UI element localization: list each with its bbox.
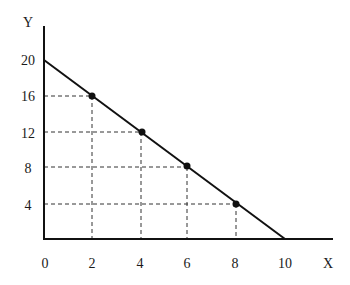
point-4-12 [139, 129, 146, 136]
guide-lines [44, 96, 236, 239]
y-axis-label: Y [23, 15, 33, 30]
x-tick-6: 6 [184, 256, 191, 271]
y-tick-12: 12 [21, 126, 35, 141]
y-tick-4: 4 [25, 198, 32, 213]
chart: Y X 20 16 12 8 4 0 2 4 6 8 10 [0, 0, 350, 285]
point-6-8 [184, 163, 191, 170]
y-tick-20: 20 [21, 53, 35, 68]
x-tick-10: 10 [278, 256, 292, 271]
x-tick-4: 4 [137, 256, 144, 271]
x-axis-label: X [323, 256, 333, 271]
y-tick-8: 8 [25, 161, 32, 176]
point-8-4 [233, 201, 240, 208]
x-tick-0: 0 [42, 256, 49, 271]
x-tick-2: 2 [89, 256, 96, 271]
x-tick-8: 8 [232, 256, 239, 271]
y-tick-16: 16 [21, 89, 35, 104]
data-line [44, 60, 285, 239]
point-2-16 [89, 93, 96, 100]
